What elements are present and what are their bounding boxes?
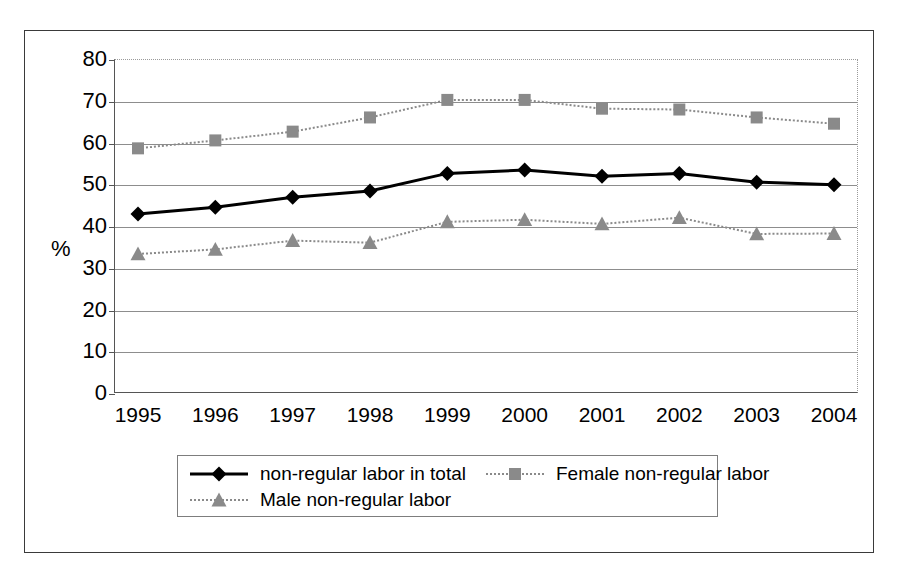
data-point-1-2004 xyxy=(828,118,840,130)
data-point-0-2003 xyxy=(749,175,764,190)
data-point-0-1996 xyxy=(208,200,223,215)
data-point-0-1999 xyxy=(440,166,455,181)
data-point-0-1995 xyxy=(131,206,146,221)
x-axis-tick-1999: 1999 xyxy=(424,403,471,427)
data-point-0-2000 xyxy=(517,163,532,178)
legend-label-total: non-regular labor in total xyxy=(260,464,466,484)
x-axis-tick-1995: 1995 xyxy=(115,403,162,427)
legend-entry-total[interactable]: non-regular labor in total xyxy=(188,460,466,488)
y-axis-tick-10: 10 xyxy=(61,340,107,362)
series-line-2 xyxy=(138,218,834,254)
legend-entry-male[interactable]: Male non-regular labor xyxy=(188,486,451,514)
data-point-2-1999 xyxy=(440,214,455,228)
diamond-marker-icon xyxy=(188,464,250,484)
data-point-1-2001 xyxy=(596,103,608,115)
x-axis-tick-2002: 2002 xyxy=(656,403,703,427)
x-axis-tick-1997: 1997 xyxy=(269,403,316,427)
x-axis-tick-labels: 1995199619971998199920002001200220032004 xyxy=(114,403,858,433)
y-axis-tick-40: 40 xyxy=(61,215,107,237)
legend-row-2: Male non-regular labor xyxy=(188,486,451,514)
legend-marker-1 xyxy=(509,468,521,480)
data-point-0-2004 xyxy=(827,177,842,192)
chart-figure: 01020304050607080 % 19951996199719981999… xyxy=(24,30,874,553)
x-axis-tick-2000: 2000 xyxy=(501,403,548,427)
series-line-1 xyxy=(138,100,834,148)
series-1 xyxy=(132,94,840,154)
chart-legend: non-regular labor in total Female non-re… xyxy=(177,455,718,517)
series-2 xyxy=(131,210,842,260)
data-point-0-2002 xyxy=(672,166,687,181)
data-point-2-2002 xyxy=(672,210,687,224)
legend-marker-0 xyxy=(212,467,227,482)
y-axis-unit-label: % xyxy=(51,238,71,260)
y-axis-tick-60: 60 xyxy=(61,132,107,154)
series-layer xyxy=(114,59,858,393)
legend-entry-female[interactable]: Female non-regular labor xyxy=(484,460,769,488)
y-axis-tick-50: 50 xyxy=(61,173,107,195)
legend-marker-2 xyxy=(212,493,227,507)
x-axis-tick-1998: 1998 xyxy=(347,403,394,427)
x-axis-tick-2004: 2004 xyxy=(811,403,858,427)
y-axis-tick-labels: 01020304050607080 xyxy=(49,59,107,393)
data-point-1-2002 xyxy=(673,104,685,116)
data-point-1-2003 xyxy=(751,111,763,123)
plot-wrapper: 01020304050607080 % 19951996199719981999… xyxy=(25,31,875,431)
data-point-1-1999 xyxy=(441,94,453,106)
data-point-1-1998 xyxy=(364,111,376,123)
y-tick-mark-0 xyxy=(109,394,115,395)
data-point-1-2000 xyxy=(519,94,531,106)
data-point-0-2001 xyxy=(595,169,610,184)
series-0 xyxy=(131,163,842,222)
series-line-0 xyxy=(138,170,834,214)
data-point-1-1997 xyxy=(287,126,299,138)
legend-row-1: non-regular labor in total Female non-re… xyxy=(188,460,769,488)
legend-label-male: Male non-regular labor xyxy=(260,490,451,510)
data-point-1-1996 xyxy=(209,134,221,146)
y-axis-tick-20: 20 xyxy=(61,299,107,321)
x-axis-tick-2003: 2003 xyxy=(733,403,780,427)
data-point-0-1997 xyxy=(285,190,300,205)
data-point-1-1995 xyxy=(132,142,144,154)
data-point-0-1998 xyxy=(363,183,378,198)
y-axis-tick-80: 80 xyxy=(61,48,107,70)
x-axis-tick-1996: 1996 xyxy=(192,403,239,427)
square-marker-icon xyxy=(484,464,546,484)
x-axis-tick-2001: 2001 xyxy=(579,403,626,427)
y-axis-tick-0: 0 xyxy=(61,382,107,404)
y-axis-tick-70: 70 xyxy=(61,90,107,112)
legend-label-female: Female non-regular labor xyxy=(556,464,769,484)
triangle-marker-icon xyxy=(188,490,250,510)
